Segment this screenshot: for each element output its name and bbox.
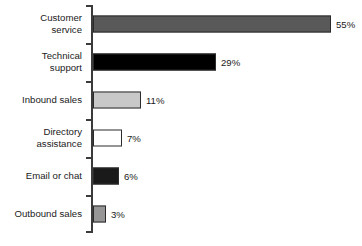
bar-chart: Customer service 55% Technical support 2… — [0, 0, 362, 246]
bar-group: 3% — [93, 206, 125, 223]
bar[interactable] — [93, 92, 141, 109]
category-label: Outbound sales — [0, 208, 82, 220]
category-label: Customer service — [0, 12, 82, 35]
bar-value-label: 3% — [111, 209, 125, 220]
bar-value-label: 55% — [336, 19, 355, 30]
bar-value-label: 7% — [127, 133, 141, 144]
bar-group: 55% — [93, 16, 355, 33]
category-label: Directory assistance — [0, 126, 82, 149]
bar[interactable] — [93, 54, 216, 71]
bar[interactable] — [93, 130, 122, 147]
category-label: Technical support — [0, 50, 82, 73]
bar[interactable] — [93, 168, 119, 185]
bar-row: Outbound sales 3% — [0, 195, 362, 233]
category-label: Email or chat — [0, 170, 82, 182]
bar-value-label: 6% — [124, 171, 138, 182]
bar-row: Inbound sales 11% — [0, 81, 362, 119]
bar-group: 7% — [93, 130, 141, 147]
bar-group: 11% — [93, 92, 165, 109]
bar[interactable] — [93, 206, 106, 223]
bar-row: Technical support 29% — [0, 43, 362, 81]
bar-value-label: 29% — [221, 57, 240, 68]
bar-group: 6% — [93, 168, 138, 185]
bar-row: Customer service 55% — [0, 5, 362, 43]
plot-area: Customer service 55% Technical support 2… — [0, 0, 362, 246]
bar-row: Directory assistance 7% — [0, 119, 362, 157]
bar-row: Email or chat 6% — [0, 157, 362, 195]
bar-value-label: 11% — [146, 95, 165, 106]
bar[interactable] — [93, 16, 331, 33]
bar-group: 29% — [93, 54, 240, 71]
category-label: Inbound sales — [0, 94, 82, 106]
